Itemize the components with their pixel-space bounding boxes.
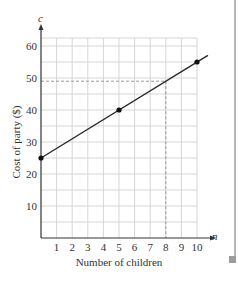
data-point	[116, 107, 121, 112]
side-scroll-handle[interactable]	[229, 256, 236, 263]
chart: 12345678910102030405060 Number of childr…	[0, 0, 238, 284]
x-axis-variable: n	[212, 230, 218, 242]
x-tick-label: 8	[163, 241, 169, 253]
x-tick-label: 5	[116, 241, 122, 253]
x-axis-label: Number of children	[76, 256, 163, 268]
y-axis-variable: c	[38, 12, 43, 24]
y-tick-label: 30	[26, 136, 38, 148]
x-tick-label: 3	[85, 241, 91, 253]
x-tick-label: 4	[101, 241, 107, 253]
y-tick-label: 50	[26, 72, 38, 84]
grid	[41, 38, 197, 238]
series-line	[41, 55, 208, 158]
x-tick-label: 9	[179, 241, 185, 253]
side-scrollbar-track[interactable]	[234, 0, 236, 262]
y-tick-label: 60	[26, 40, 38, 52]
y-tick-label: 20	[26, 168, 38, 180]
x-tick-label: 6	[132, 241, 138, 253]
data-line	[38, 55, 208, 160]
tick-labels: 12345678910102030405060	[26, 40, 203, 253]
x-tick-label: 2	[69, 241, 75, 253]
x-tick-label: 10	[192, 241, 204, 253]
y-axis-arrow-icon	[39, 24, 44, 30]
x-tick-label: 1	[54, 241, 60, 253]
x-tick-label: 7	[147, 241, 153, 253]
data-point	[194, 59, 199, 64]
y-tick-label: 10	[26, 200, 38, 212]
axes	[39, 24, 217, 241]
y-tick-label: 40	[26, 104, 38, 116]
data-point	[38, 155, 43, 160]
y-axis-label: Cost of party ($)	[10, 105, 23, 178]
